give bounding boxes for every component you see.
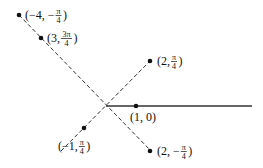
point-neg4-negpi4-dot bbox=[17, 13, 22, 18]
svg-text:): ) bbox=[86, 139, 90, 153]
point-neg1-pi4-label: (−1, π4) bbox=[58, 138, 90, 156]
point-2-negpi4-dot bbox=[148, 149, 153, 154]
svg-text:4: 4 bbox=[172, 62, 176, 71]
point-2-negpi4-label: (2, −π4) bbox=[157, 143, 192, 161]
svg-text:π: π bbox=[172, 53, 176, 62]
svg-text:): ) bbox=[179, 54, 183, 68]
svg-text:(−4, −: (−4, − bbox=[25, 8, 55, 22]
svg-text:π: π bbox=[57, 7, 61, 16]
svg-text:3π: 3π bbox=[62, 30, 70, 39]
svg-text:4: 4 bbox=[182, 152, 186, 161]
svg-text:π: π bbox=[182, 143, 186, 152]
point-2-pi4-dot bbox=[148, 59, 153, 64]
svg-text:4: 4 bbox=[65, 39, 69, 48]
point-3-3pi4-dot bbox=[39, 36, 44, 41]
svg-text:(1, 0): (1, 0) bbox=[130, 110, 156, 124]
svg-text:π: π bbox=[80, 138, 84, 147]
svg-text:): ) bbox=[188, 144, 192, 158]
polar-diagram: (−4, −π4)(3, 3π4)(2, π4)(1, 0)(−1, π4)(2… bbox=[0, 0, 263, 168]
svg-text:(2, −: (2, − bbox=[157, 144, 180, 158]
svg-text:): ) bbox=[63, 8, 67, 22]
point-neg1-pi4-dot bbox=[82, 126, 87, 131]
svg-text:): ) bbox=[74, 31, 78, 45]
point-2-pi4-label: (2, π4) bbox=[157, 53, 183, 71]
point-1-0-label: (1, 0) bbox=[130, 110, 156, 124]
svg-text:(3,: (3, bbox=[47, 31, 60, 45]
svg-text:4: 4 bbox=[57, 16, 61, 25]
line-3pi4 bbox=[19, 15, 151, 151]
point-1-0-dot bbox=[134, 104, 139, 109]
svg-text:4: 4 bbox=[80, 147, 84, 156]
point-3-3pi4-label: (3, 3π4) bbox=[47, 30, 78, 48]
svg-text:(−1,: (−1, bbox=[58, 139, 78, 153]
point-neg4-negpi4-label: (−4, −π4) bbox=[25, 7, 67, 25]
svg-text:(2,: (2, bbox=[157, 54, 170, 68]
